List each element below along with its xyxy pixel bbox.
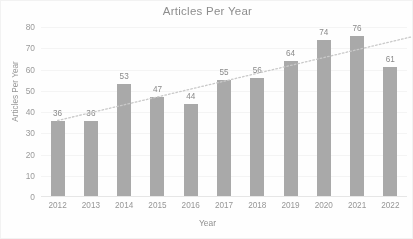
y-axis-tick-label: 50 xyxy=(26,86,35,96)
bar-slot: 74 xyxy=(307,27,340,197)
bar[interactable] xyxy=(383,67,397,197)
bar-slot: 53 xyxy=(108,27,141,197)
bar-slot: 61 xyxy=(374,27,407,197)
bar-value-label: 53 xyxy=(120,72,129,81)
bar-value-label: 44 xyxy=(186,92,195,101)
bar-slot: 44 xyxy=(174,27,207,197)
x-axis-tick-label: 2019 xyxy=(274,201,307,210)
y-axis-tick-label: 0 xyxy=(30,192,35,202)
bar[interactable] xyxy=(317,40,331,197)
bar-value-label: 64 xyxy=(286,49,295,58)
x-axis-label: Year xyxy=(1,218,413,228)
y-axis-tick-label: 60 xyxy=(26,65,35,75)
x-axis-line xyxy=(41,196,407,197)
bar[interactable] xyxy=(84,121,98,198)
x-axis-tick-label: 2016 xyxy=(174,201,207,210)
bar-slot: 56 xyxy=(241,27,274,197)
bar[interactable] xyxy=(150,97,164,197)
bar-value-label: 55 xyxy=(219,68,228,77)
bar[interactable] xyxy=(350,36,364,198)
bar-value-label: 61 xyxy=(386,55,395,64)
x-axis-tick-label: 2015 xyxy=(141,201,174,210)
y-axis-tick-label: 30 xyxy=(26,128,35,138)
x-axis-tick-label: 2022 xyxy=(374,201,407,210)
bar[interactable] xyxy=(217,80,231,197)
plot-area: 01020304050607080 3636534744555664747661 xyxy=(41,27,407,197)
bar-value-label: 36 xyxy=(86,109,95,118)
y-axis-tick-label: 80 xyxy=(26,22,35,32)
bar-value-label: 56 xyxy=(253,66,262,75)
x-axis-tick-label: 2014 xyxy=(108,201,141,210)
bar[interactable] xyxy=(184,104,198,198)
bar[interactable] xyxy=(51,121,65,198)
bar-value-label: 36 xyxy=(53,109,62,118)
bar[interactable] xyxy=(284,61,298,197)
bar-slot: 36 xyxy=(74,27,107,197)
x-axis-tick-label: 2017 xyxy=(207,201,240,210)
y-axis-tick-label: 40 xyxy=(26,107,35,117)
chart-title: Articles Per Year xyxy=(1,5,413,17)
bar-slot: 47 xyxy=(141,27,174,197)
x-axis-tick-label: 2018 xyxy=(241,201,274,210)
y-axis-tick-label: 70 xyxy=(26,43,35,53)
y-axis-label: Articles Per Year xyxy=(11,52,20,132)
bar-slot: 76 xyxy=(340,27,373,197)
y-axis-tick-label: 10 xyxy=(26,171,35,181)
bar-slot: 36 xyxy=(41,27,74,197)
bar-slot: 64 xyxy=(274,27,307,197)
bar-value-label: 76 xyxy=(353,24,362,33)
chart-container: Articles Per Year Articles Per Year Year… xyxy=(0,0,413,239)
x-axis-tick-label: 2020 xyxy=(307,201,340,210)
bar-slot: 55 xyxy=(207,27,240,197)
bar-value-label: 47 xyxy=(153,85,162,94)
x-axis-tick-label: 2013 xyxy=(74,201,107,210)
bar[interactable] xyxy=(250,78,264,197)
x-axis-tick-label: 2012 xyxy=(41,201,74,210)
x-axis-tick-label: 2021 xyxy=(340,201,373,210)
y-axis-tick-label: 20 xyxy=(26,150,35,160)
bar[interactable] xyxy=(117,84,131,197)
bar-value-label: 74 xyxy=(319,28,328,37)
